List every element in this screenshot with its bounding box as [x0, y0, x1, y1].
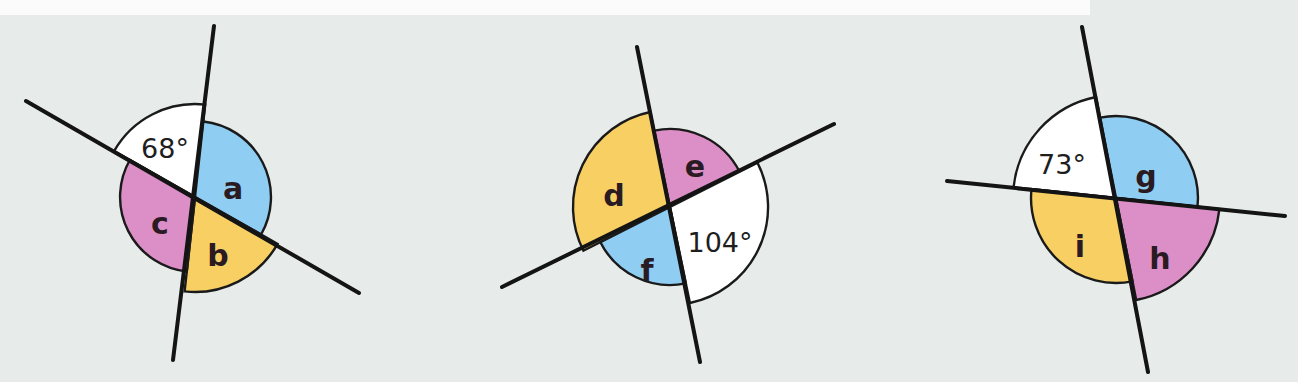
unknown-angle-label: g: [1135, 159, 1156, 194]
unknown-angle-label: b: [207, 238, 228, 273]
unknown-angle-label: f: [640, 253, 654, 288]
given-angle-label: 104°: [687, 227, 752, 258]
intersecting-lines-figure: 68°abc de104°f 73°ghi: [0, 0, 1298, 382]
unknown-angle-label: i: [1075, 229, 1085, 264]
unknown-angle-label: h: [1149, 241, 1170, 276]
diagram-1: 68°abc: [26, 26, 359, 360]
diagram-2: de104°f: [502, 47, 834, 362]
given-angle-label: 68°: [141, 133, 189, 164]
unknown-angle-label: a: [223, 171, 243, 206]
unknown-angle-label: c: [151, 206, 169, 241]
given-angle-label: 73°: [1038, 149, 1086, 180]
unknown-angle-label: e: [685, 149, 705, 184]
unknown-angle-label: d: [603, 178, 624, 213]
sector-73-deg: [1014, 97, 1116, 198]
diagram-3: 73°ghi: [947, 27, 1285, 372]
